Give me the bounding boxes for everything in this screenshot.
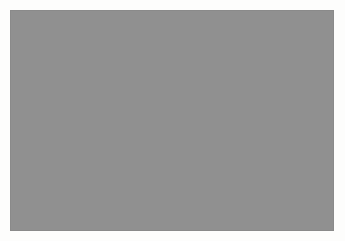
micrograph-background	[11, 11, 333, 230]
micrograph-frame	[10, 10, 334, 231]
figure-root	[0, 0, 345, 241]
